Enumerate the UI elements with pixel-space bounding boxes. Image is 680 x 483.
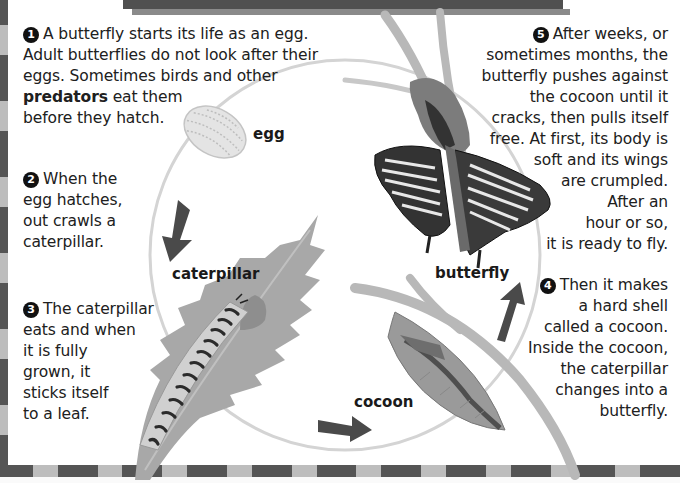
step-text-line: grown, it bbox=[23, 362, 163, 383]
label-caterpillar: caterpillar bbox=[172, 265, 259, 283]
step-text-line: eats and when bbox=[23, 320, 163, 341]
step-text-line: caterpillar. bbox=[23, 232, 163, 253]
glossary-term-predators: predators bbox=[23, 88, 108, 106]
step-text-line: The caterpillar bbox=[43, 300, 154, 318]
step-4-paragraph: 4Then it makes a hard shell called a coc… bbox=[490, 275, 668, 422]
step-text-line: When the bbox=[43, 170, 117, 188]
step-number-badge: 2 bbox=[23, 172, 39, 188]
step-text-line: cracks, then pulls itself bbox=[440, 108, 668, 129]
step-text-line: before they hatch. bbox=[23, 108, 343, 129]
step-text-line: a hard shell bbox=[490, 296, 668, 317]
leaf-icon bbox=[135, 215, 325, 480]
label-cocoon: cocoon bbox=[354, 393, 413, 411]
step-text-line: Inside the cocoon, bbox=[490, 338, 668, 359]
step-text-line: it is fully bbox=[23, 341, 163, 362]
step-text-line: Adult butterflies do not look after thei… bbox=[23, 45, 343, 66]
step-text-line: After weeks, or bbox=[553, 25, 668, 43]
step-text-line: are crumpled. bbox=[440, 171, 668, 192]
step-text-line: hour or so, bbox=[440, 213, 668, 234]
step-text-line: the caterpillar bbox=[490, 359, 668, 380]
step-1-paragraph: 1A butterfly starts its life as an egg. … bbox=[23, 24, 343, 129]
step-number-badge: 3 bbox=[23, 302, 39, 318]
step-text-line: free. At first, its body is bbox=[440, 129, 668, 150]
cocoon-icon bbox=[388, 312, 505, 430]
step-number-badge: 4 bbox=[540, 278, 556, 294]
step-text-line: A butterfly starts its life as an egg. bbox=[43, 25, 308, 43]
step-text-line: After an bbox=[440, 192, 668, 213]
step-text-line: Then it makes bbox=[560, 276, 668, 294]
step-text-line: soft and its wings bbox=[440, 150, 668, 171]
step-3-paragraph: 3The caterpillar eats and when it is ful… bbox=[23, 299, 163, 425]
step-text-line: out crawls a bbox=[23, 211, 163, 232]
step-text-line: changes into a bbox=[490, 380, 668, 401]
step-text-line: sticks itself bbox=[23, 383, 163, 404]
step-text-line: sometimes months, the bbox=[440, 45, 668, 66]
step-5-paragraph: 5After weeks, or sometimes months, the b… bbox=[440, 24, 668, 255]
step-text-line: called a cocoon. bbox=[490, 317, 668, 338]
step-text-line: to a leaf. bbox=[23, 404, 163, 425]
step-2-paragraph: 2When the egg hatches, out crawls a cate… bbox=[23, 169, 163, 253]
step-text-line: butterfly. bbox=[490, 401, 668, 422]
arrow-egg-to-caterpillar bbox=[162, 200, 192, 262]
step-number-badge: 1 bbox=[23, 27, 39, 43]
step-text-line: eggs. Sometimes birds and other bbox=[23, 66, 343, 87]
step-text-line: egg hatches, bbox=[23, 190, 163, 211]
step-text-line: the cocoon until it bbox=[440, 87, 668, 108]
step-text-line: it is ready to fly. bbox=[440, 234, 668, 255]
step-text-line: eat them bbox=[108, 88, 183, 106]
step-text-line: butterfly pushes against bbox=[440, 66, 668, 87]
step-number-badge: 5 bbox=[533, 27, 549, 43]
arrow-caterpillar-to-cocoon bbox=[318, 416, 372, 442]
